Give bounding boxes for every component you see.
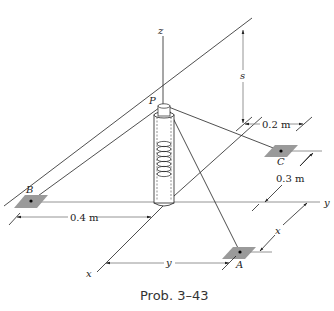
dimension-y-label: y	[165, 257, 172, 268]
dimension-s-label: s	[240, 70, 245, 81]
point-C-label: C	[277, 156, 285, 167]
cable-PB	[31, 105, 163, 201]
floor-guide-line	[174, 117, 262, 196]
dimension-0-2m-label: 0.2 m	[262, 119, 291, 130]
anchor-plate-A	[222, 247, 256, 259]
cable-PA	[168, 108, 240, 252]
dimension-0-3m: 0.3 m	[265, 151, 322, 202]
point-P-label: P	[148, 95, 156, 106]
dimension-0-4m-label: 0.4 m	[70, 212, 99, 223]
long-diagonal-line	[4, 18, 252, 206]
dimension-s: s	[240, 30, 245, 123]
point-A-label: A	[235, 259, 243, 270]
anchor-plate-B	[14, 195, 48, 208]
dimension-0-2m: 0.2 m	[236, 117, 312, 131]
dimension-x-label: x	[275, 225, 281, 236]
figure-caption: Prob. 3–43	[140, 288, 208, 303]
point-B-label: B	[25, 184, 33, 195]
inner-post	[158, 104, 170, 116]
z-axis-label: z	[157, 25, 164, 36]
dimension-0-4m: 0.4 m	[9, 212, 151, 225]
problem-figure: z y x P B C	[0, 0, 334, 311]
dimension-x: x	[250, 203, 307, 252]
dimension-y: y	[106, 256, 236, 270]
x-axis	[97, 206, 163, 272]
x-axis-label: x	[86, 268, 92, 279]
dimension-0-3m-label: 0.3 m	[276, 173, 305, 184]
y-axis-label: y	[323, 197, 330, 208]
